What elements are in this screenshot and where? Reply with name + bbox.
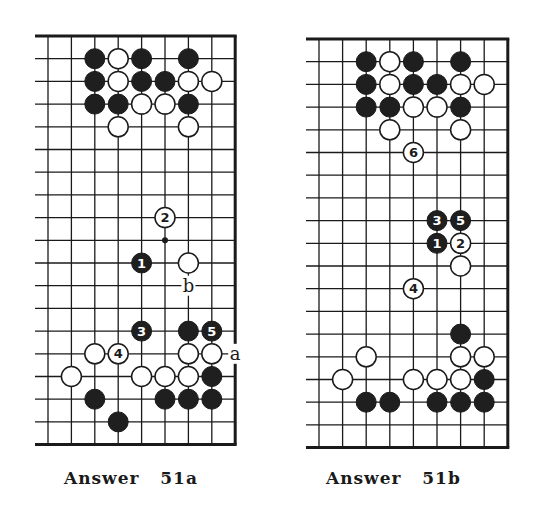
black-stone [403, 52, 423, 72]
move-number-5: 5 [456, 213, 465, 228]
black-stone [427, 392, 447, 412]
white-stone [403, 370, 423, 390]
move-number-4: 4 [409, 281, 418, 296]
go-diagram-51b: 635124 [0, 0, 534, 517]
black-stone [451, 392, 471, 412]
move-number-3: 3 [432, 213, 441, 228]
go-board-51b: 635124 [0, 0, 534, 517]
black-stone [380, 97, 400, 117]
black-stone [356, 52, 376, 72]
white-stone [451, 256, 471, 276]
move-number-2: 2 [456, 236, 465, 251]
white-stone [474, 74, 494, 94]
white-stone [403, 97, 423, 117]
white-stone [380, 74, 400, 94]
white-stone [451, 370, 471, 390]
black-stone [451, 324, 471, 344]
white-stone [451, 120, 471, 140]
black-stone [427, 74, 447, 94]
black-stone [451, 52, 471, 72]
black-stone [380, 392, 400, 412]
move-number-6: 6 [409, 145, 418, 160]
move-number-1: 1 [432, 236, 441, 251]
black-stone [356, 97, 376, 117]
white-stone [451, 347, 471, 367]
caption-answer-51b: Answer 51b [326, 468, 461, 488]
white-stone [427, 370, 447, 390]
black-stone [356, 392, 376, 412]
black-stone [474, 370, 494, 390]
caption-answer-51a: Answer 51a [64, 468, 198, 488]
black-stone [474, 392, 494, 412]
black-stone [356, 74, 376, 94]
black-stone [403, 74, 423, 94]
white-stone [380, 120, 400, 140]
white-stone [451, 74, 471, 94]
white-stone [333, 370, 353, 390]
white-stone [380, 52, 400, 72]
white-stone [356, 347, 376, 367]
black-stone [451, 97, 471, 117]
white-stone [427, 97, 447, 117]
white-stone [474, 347, 494, 367]
